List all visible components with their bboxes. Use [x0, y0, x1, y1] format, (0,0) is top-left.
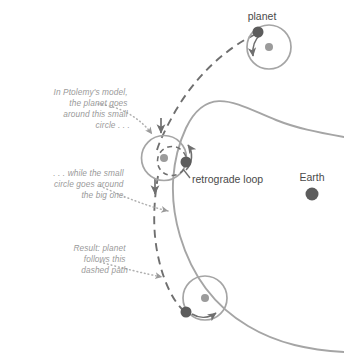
annot-line: . . . while the small	[53, 168, 124, 178]
ptolemaic-epicycle-diagram: planet Earth retrograde loop In Ptolemy'…	[0, 0, 344, 354]
diagram-canvas: planet Earth retrograde loop In Ptolemy'…	[0, 0, 344, 354]
epicycle-middle-center-dot	[160, 154, 168, 162]
earth-group	[306, 188, 319, 201]
annot-line: the big one.	[81, 190, 126, 200]
annot-line: circle goes around	[54, 179, 124, 189]
annot-line: circle . . .	[96, 120, 130, 130]
deferent-group	[173, 101, 344, 352]
planet-dashed-path-lower	[154, 176, 184, 311]
svg-text:Result: planet follows: Result: planet follows this dashed path	[73, 243, 128, 275]
epicycle-top-group	[247, 25, 291, 69]
annot-line: follows this	[84, 254, 126, 264]
svg-text:In Ptolemy's model, th: In Ptolemy's model, the planet goes arou…	[54, 87, 130, 130]
annot-line: dashed path	[81, 265, 128, 275]
epicycle-bottom-group	[181, 276, 228, 320]
earth-label: Earth	[299, 171, 324, 183]
annot-line: around this small	[63, 109, 128, 119]
epicycle-top-center-dot	[265, 43, 273, 51]
planet-dot-middle	[181, 157, 192, 168]
planet-dot-top	[253, 27, 264, 38]
deferent-arc	[173, 101, 344, 352]
earth-dot	[306, 188, 319, 201]
annotation-deferent-note: . . . while the small circle goes around…	[53, 168, 126, 200]
annotation-dashed-path-note: Result: planet follows this dashed path	[73, 243, 128, 275]
planet-dot-bottom	[181, 307, 192, 318]
svg-text:. . . while the small: . . . while the small circle goes around…	[53, 168, 126, 200]
arrow-epicycle-bottom	[192, 313, 216, 317]
annot-line: the planet goes	[69, 98, 127, 108]
epicycle-bottom-center-dot	[201, 294, 209, 302]
retrograde-loop-label: retrograde loop	[192, 173, 263, 185]
annot-line: Result: planet	[73, 243, 126, 253]
epicycle-middle-group	[142, 136, 192, 181]
annot-line: In Ptolemy's model,	[54, 87, 128, 97]
annotation-epicycle-note: In Ptolemy's model, the planet goes arou…	[54, 87, 130, 130]
planet-dashed-path	[157, 34, 256, 150]
planet-label: planet	[248, 10, 277, 22]
